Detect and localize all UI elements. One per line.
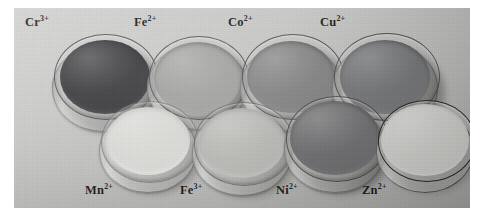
ion-label-cr3: Cr3+ [25, 16, 49, 29]
ion-charge: 2+ [289, 182, 298, 191]
ion-element: Ni [276, 183, 289, 197]
dish-contents-zn2 [381, 104, 469, 176]
ion-charge: 2+ [104, 182, 113, 191]
photograph-plate: Cr3+ Fe2+ Co2+ Cu2+ Mn2+ Fe3+ Ni2+ Zn2+ [14, 8, 470, 208]
ion-charge: 3+ [40, 14, 49, 23]
ion-element: Cu [320, 15, 336, 29]
ion-label-fe2: Fe2+ [134, 16, 157, 29]
dish-contents-ni2 [290, 101, 380, 175]
dish-contents-mn2 [106, 107, 190, 175]
ion-charge: 2+ [336, 14, 345, 23]
ion-label-ni2: Ni2+ [276, 184, 298, 197]
ion-element: Fe [134, 15, 148, 29]
dish-contents-fe3 [199, 108, 285, 178]
ion-charge: 2+ [244, 14, 253, 23]
figure-root: Cr3+ Fe2+ Co2+ Cu2+ Mn2+ Fe3+ Ni2+ Zn2+ [0, 0, 482, 218]
ion-element: Co [228, 15, 244, 29]
dish-contents-sheen [381, 104, 469, 176]
petri-dish-zn2 [376, 100, 470, 200]
ion-label-fe3: Fe3+ [180, 184, 203, 197]
ion-label-zn2: Zn2+ [362, 184, 387, 197]
ion-element: Fe [180, 183, 194, 197]
ion-label-cu2: Cu2+ [320, 16, 345, 29]
ion-element: Zn [362, 183, 378, 197]
dish-contents-sheen [290, 101, 380, 175]
ion-label-mn2: Mn2+ [85, 184, 113, 197]
ion-charge: 2+ [378, 182, 387, 191]
ion-charge: 2+ [148, 14, 157, 23]
dish-contents-sheen [106, 107, 190, 175]
ion-element: Mn [85, 183, 104, 197]
dish-contents-sheen [199, 108, 285, 178]
ion-element: Cr [25, 15, 40, 29]
ion-label-co2: Co2+ [228, 16, 253, 29]
ion-charge: 3+ [194, 182, 203, 191]
